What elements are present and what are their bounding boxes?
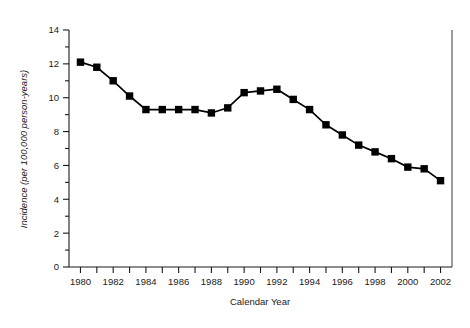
data-point-2001 bbox=[420, 165, 427, 172]
data-point-1997 bbox=[355, 141, 362, 148]
x-tick-label-2000: 2000 bbox=[397, 276, 418, 287]
data-point-1996 bbox=[339, 131, 346, 138]
y-tick-label-6: 6 bbox=[54, 160, 59, 171]
scan-artifact-bottom bbox=[8, 318, 9, 324]
data-point-1988 bbox=[208, 109, 215, 116]
x-tick-label-2002: 2002 bbox=[430, 276, 451, 287]
y-tick-label-4: 4 bbox=[54, 194, 59, 205]
x-tick-label-1990: 1990 bbox=[234, 276, 255, 287]
data-point-1980 bbox=[77, 58, 84, 65]
data-point-1984 bbox=[142, 106, 149, 113]
x-tick-label-1982: 1982 bbox=[103, 276, 124, 287]
x-axis-title: Calendar Year bbox=[230, 296, 290, 307]
x-tick-label-1986: 1986 bbox=[168, 276, 189, 287]
data-point-1981 bbox=[93, 64, 100, 71]
data-point-1985 bbox=[159, 106, 166, 113]
data-point-1989 bbox=[224, 104, 231, 111]
data-point-1999 bbox=[388, 155, 395, 162]
y-tick-label-2: 2 bbox=[54, 228, 59, 239]
data-point-1998 bbox=[371, 148, 378, 155]
x-tick-label-1992: 1992 bbox=[266, 276, 287, 287]
y-axis-title: Incidence (per 100,000 person-years) bbox=[18, 70, 29, 228]
data-point-2000 bbox=[404, 163, 411, 170]
data-point-1990 bbox=[240, 89, 247, 96]
data-point-1986 bbox=[175, 106, 182, 113]
scan-artifact-top bbox=[170, 289, 171, 295]
y-tick-label-10: 10 bbox=[48, 92, 59, 103]
x-tick-label-1984: 1984 bbox=[135, 276, 156, 287]
x-tick-label-1996: 1996 bbox=[332, 276, 353, 287]
incidence-line-chart: 02468101214 1980198219841986198819901992… bbox=[0, 0, 470, 328]
figure-container: 02468101214 1980198219841986198819901992… bbox=[0, 0, 470, 328]
data-point-1993 bbox=[290, 96, 297, 103]
data-point-1983 bbox=[126, 92, 133, 99]
y-tick-label-12: 12 bbox=[48, 58, 59, 69]
x-tick-label-1980: 1980 bbox=[70, 276, 91, 287]
data-point-2002 bbox=[437, 177, 444, 184]
x-tick-label-1998: 1998 bbox=[365, 276, 386, 287]
y-tick-label-0: 0 bbox=[54, 261, 59, 272]
data-point-1987 bbox=[191, 106, 198, 113]
x-tick-label-1988: 1988 bbox=[201, 276, 222, 287]
data-point-1991 bbox=[257, 87, 264, 94]
data-point-1994 bbox=[306, 106, 313, 113]
data-point-1995 bbox=[322, 121, 329, 128]
x-tick-label-1994: 1994 bbox=[299, 276, 320, 287]
data-point-1982 bbox=[109, 77, 116, 84]
y-tick-label-14: 14 bbox=[48, 24, 59, 35]
data-point-1992 bbox=[273, 86, 280, 93]
y-tick-label-8: 8 bbox=[54, 126, 59, 137]
